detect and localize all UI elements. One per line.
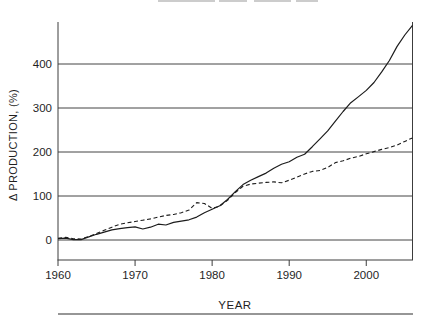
solid-series-line xyxy=(58,25,413,239)
dashed-series-line xyxy=(58,138,413,239)
y-tick-label: 100 xyxy=(33,190,52,202)
y-tick-label: 300 xyxy=(33,102,52,114)
y-axis-label: Δ PRODUCTION, (%) xyxy=(7,89,19,201)
line-chart-figure: 0100200300400 19601970198019902000 YEAR … xyxy=(0,0,430,335)
x-tick-label: 1980 xyxy=(199,269,225,281)
plot-axes xyxy=(58,22,414,260)
x-tick-label: 1990 xyxy=(276,269,302,281)
cropped-title-fragment xyxy=(158,0,318,2)
x-tick-label: 1970 xyxy=(122,269,148,281)
cropped-text-mark xyxy=(219,0,247,2)
y-tick-label: 200 xyxy=(33,146,52,158)
cropped-text-mark xyxy=(254,0,291,2)
cropped-text-mark xyxy=(158,0,215,2)
y-tick-labels: 0100200300400 xyxy=(33,58,52,246)
cropped-text-mark xyxy=(296,0,318,2)
production-vs-year-chart: 0100200300400 19601970198019902000 YEAR … xyxy=(0,0,430,335)
x-axis-label: YEAR xyxy=(218,299,251,311)
y-tick-label: 400 xyxy=(33,58,52,70)
y-gridlines xyxy=(58,64,413,240)
y-tick-label: 0 xyxy=(46,234,52,246)
x-tick-label: 2000 xyxy=(353,269,379,281)
x-axis-ticks-and-labels: 19601970198019902000 xyxy=(45,260,379,281)
x-tick-label: 1960 xyxy=(45,269,71,281)
